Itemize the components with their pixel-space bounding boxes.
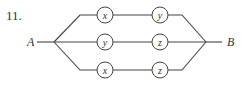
branch-bottom: x z (97, 62, 168, 78)
terminal-b-label: B (227, 35, 235, 49)
node-label: x (102, 65, 108, 76)
left-junction (54, 15, 97, 70)
node-label: x (102, 10, 108, 21)
node-label: y (157, 10, 163, 21)
node-label: y (102, 37, 108, 48)
branch-middle: y z (97, 34, 168, 50)
branch-top: x y (97, 7, 168, 23)
network-diagram: A x y y z x z B (0, 0, 249, 87)
node-label: z (157, 65, 162, 76)
right-junction (168, 15, 206, 70)
terminal-a-label: A (26, 35, 35, 49)
node-label: z (157, 37, 162, 48)
